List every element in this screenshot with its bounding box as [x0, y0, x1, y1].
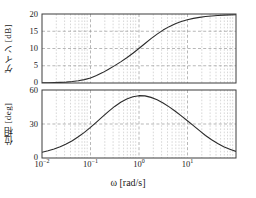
xtick-1e0: 100 [133, 160, 145, 169]
xtick-mantissa: 10 [35, 159, 44, 169]
xtick-mantissa: 10 [133, 159, 142, 169]
gain-panel [42, 14, 236, 83]
xtick-exponent: −2 [43, 158, 49, 164]
bode-plot-figure: ゲイン [dB] 位相 [deg] 20 15 10 5 0 60 30 0 [0, 0, 256, 198]
xtick-exponent: −1 [92, 158, 98, 164]
xtick-1e1: 101 [182, 160, 194, 169]
xtick-exponent: 0 [142, 158, 145, 164]
xtick-mantissa: 10 [182, 159, 191, 169]
xtick-exponent: 1 [190, 158, 193, 164]
xtick-1e-2: 10−2 [35, 160, 50, 169]
xtick-mantissa: 10 [83, 159, 92, 169]
phase-panel [42, 90, 236, 158]
x-axis-label: ω [rad/s] [0, 177, 256, 188]
xtick-1e-1: 10−1 [83, 160, 98, 169]
